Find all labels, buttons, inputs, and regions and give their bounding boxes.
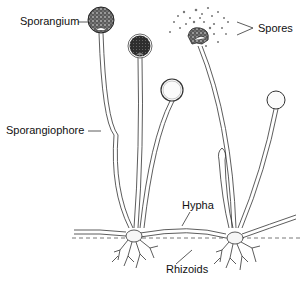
label-spores: Spores [258,23,293,34]
mold-illustration [0,0,306,289]
hypha-strands [74,215,296,238]
sporangium-2 [128,34,152,58]
sporangium-1 [88,7,114,33]
label-rhizoids: Rhizoids [166,264,208,275]
label-hypha: Hypha [182,200,214,211]
sporangium-white-1 [161,79,183,101]
sporangium-white-2 [267,91,285,109]
rhizoids-left [112,230,158,268]
mold-diagram: Sporangium Spores Sporangiophore Hypha R… [0,0,306,289]
label-sporangium: Sporangium [20,16,79,27]
label-sporangiophore: Sporangiophore [6,125,84,136]
sporangium-dehiscing [188,28,208,44]
